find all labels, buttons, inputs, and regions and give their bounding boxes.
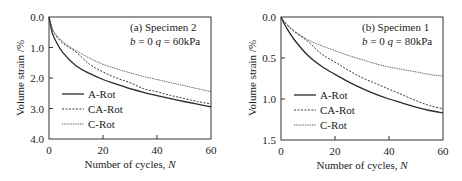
legend-label-c-rot: C-Rot — [320, 119, 347, 131]
chart-panel-b: 0.0 0.5 1.0 1.5 0 20 40 60 Number of cyc… — [231, 0, 462, 181]
chart-b-svg: 0.0 0.5 1.0 1.5 0 20 40 60 Number of cyc… — [231, 0, 462, 181]
legend-label-a-rot: A-Rot — [88, 88, 116, 100]
svg-text:1.5: 1.5 — [262, 134, 276, 146]
svg-text:1.0: 1.0 — [262, 93, 276, 105]
svg-text:0.0: 0.0 — [30, 11, 44, 23]
svg-text:0.0: 0.0 — [262, 11, 276, 23]
legend: A-Rot CA-Rot C-Rot — [62, 88, 123, 130]
svg-text:0: 0 — [46, 144, 52, 156]
panel-title: (a) Specimen 2 — [130, 21, 197, 34]
chart-a-svg: 0.0 1.0 2.0 3.0 4.0 0 20 40 60 Number of… — [0, 0, 231, 181]
legend-label-c-rot: C-Rot — [88, 118, 115, 130]
x-tick-labels: 0 20 40 60 — [278, 145, 449, 157]
panel-title: (b) Specimen 1 — [362, 21, 429, 34]
y-tick-labels: 0.0 1.0 2.0 3.0 4.0 — [30, 11, 44, 145]
y-axis-label: Volume strain /% — [14, 40, 26, 116]
condition-label: b = 0 q = 60kPa — [130, 35, 200, 47]
legend-label-a-rot: A-Rot — [320, 89, 348, 101]
x-tick-labels: 0 20 40 60 — [46, 144, 217, 156]
legend-label-ca-rot: CA-Rot — [320, 104, 355, 116]
svg-text:40: 40 — [152, 144, 164, 156]
svg-text:20: 20 — [330, 145, 342, 157]
svg-text:0.5: 0.5 — [262, 52, 276, 64]
y-tick-labels: 0.0 0.5 1.0 1.5 — [262, 11, 276, 146]
svg-text:60: 60 — [206, 144, 218, 156]
chart-panel-a: 0.0 1.0 2.0 3.0 4.0 0 20 40 60 Number of… — [0, 0, 231, 181]
x-axis-label: Number of cycles, N — [316, 159, 408, 171]
legend: A-Rot CA-Rot C-Rot — [294, 89, 355, 131]
legend-label-ca-rot: CA-Rot — [88, 103, 123, 115]
x-axis-label: Number of cycles, N — [84, 158, 176, 170]
svg-text:40: 40 — [384, 145, 396, 157]
svg-text:4.0: 4.0 — [30, 133, 44, 145]
svg-text:2.0: 2.0 — [30, 72, 44, 84]
condition-label: b = 0 q = 80kPa — [362, 35, 432, 47]
y-axis-label: Volume strain /% — [246, 40, 258, 116]
svg-text:3.0: 3.0 — [30, 103, 44, 115]
svg-text:0: 0 — [278, 145, 284, 157]
svg-text:1.0: 1.0 — [30, 42, 44, 54]
svg-text:20: 20 — [98, 144, 110, 156]
svg-text:60: 60 — [438, 145, 450, 157]
